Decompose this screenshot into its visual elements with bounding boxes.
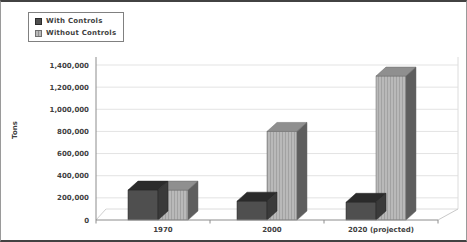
chart-frame: With Controls Without Controls Tons 0200…: [0, 0, 467, 242]
x-category-label: 2020 (projected): [348, 226, 414, 234]
floor-left-edge: [96, 209, 106, 220]
legend-item-with-controls: With Controls: [35, 17, 116, 25]
legend-swatch-without-controls: [35, 30, 42, 37]
y-tick-label: 800,000: [57, 128, 89, 136]
bar-with-controls-2000: [237, 192, 277, 220]
x-category-label: 1970: [153, 226, 173, 234]
y-tick-label: 200,000: [57, 194, 89, 202]
y-tick-label: 600,000: [57, 150, 89, 158]
floor-right-edge: [438, 209, 458, 220]
legend-swatch-with-controls: [35, 18, 42, 25]
legend: With Controls Without Controls: [28, 12, 124, 42]
y-axis-title: Tons: [11, 110, 19, 150]
y-tick-label: 0: [84, 217, 89, 225]
y-tick-label: 400,000: [57, 172, 89, 180]
legend-item-without-controls: Without Controls: [35, 29, 116, 37]
bar-with-controls-2020 (projected): [346, 193, 386, 220]
legend-label-without-controls: Without Controls: [46, 29, 116, 37]
legend-label-with-controls: With Controls: [46, 17, 103, 25]
bar-with-controls-1970: [128, 181, 168, 220]
y-tick-label: 1,200,000: [50, 84, 90, 92]
y-tick-label: 1,000,000: [50, 106, 90, 114]
x-category-label: 2000: [262, 226, 282, 234]
y-tick-label: 1,400,000: [50, 62, 90, 70]
